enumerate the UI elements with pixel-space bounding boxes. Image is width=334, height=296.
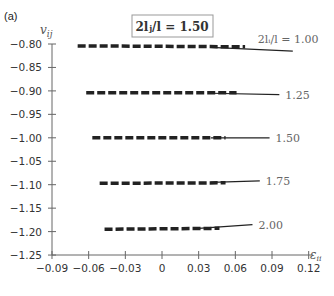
series-labels: 2lᵢ/l = 1.001.251.501.752.00 [258,33,319,232]
y-tick-label: −1.05 [10,155,42,167]
y-tick-label: −0.85 [10,61,42,73]
y-tick-label: −1.10 [10,179,42,191]
series-label: 1.75 [266,175,291,188]
y-axis-title: vij [40,23,53,39]
y-tick-label: −0.95 [10,108,42,120]
x-tick-label: 0.09 [260,262,283,274]
y-tick-label: −0.80 [10,38,42,50]
x-tick-label: −0.09 [36,262,68,274]
x-ticks: −0.09−0.06−0.0300.030.060.090.12 [36,251,320,274]
chart-canvas: (a) 2lⱼ/l = 1.50 vij −0.80−0.85−0.90−0.9… [0,0,334,296]
y-tick-label: −0.90 [10,85,42,97]
series-line [78,46,293,51]
header-box: 2lⱼ/l = 1.50 [132,15,213,37]
series-line [86,93,279,95]
x-tick-label: 0.12 [297,262,320,274]
series-group [78,46,293,229]
y-ticks: −0.80−0.85−0.90−0.95−1.00−1.05−1.10−1.15… [10,38,56,261]
series-line [100,181,260,183]
x-axis-title: εii [310,248,322,263]
series-label: 1.50 [276,132,301,145]
series-line [105,225,253,230]
x-tick-label: −0.03 [109,262,141,274]
series-label: 2.00 [258,219,283,232]
y-tick-label: −1.15 [10,202,42,214]
y-tick-label: −1.00 [10,132,42,144]
series-label: 1.25 [285,89,310,102]
x-tick-label: −0.06 [73,262,105,274]
y-tick-label: −1.20 [10,226,42,238]
panel-label: (a) [4,10,17,22]
x-tick-label: 0 [159,262,166,274]
series-label: 2lᵢ/l = 1.00 [258,33,319,46]
header-box-text: 2lⱼ/l = 1.50 [135,20,208,34]
x-tick-label: 0.03 [187,262,210,274]
y-tick-label: −1.25 [10,249,42,261]
x-tick-label: 0.06 [224,262,248,274]
